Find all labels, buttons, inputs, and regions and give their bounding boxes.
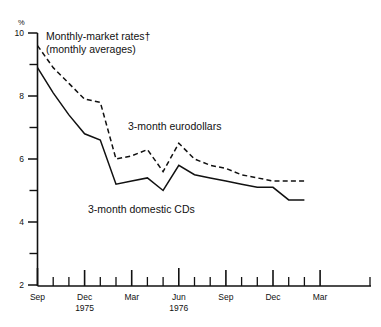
y-label-10: 10 — [15, 28, 25, 38]
x-label-sep-1976: Sep — [218, 292, 233, 302]
x-label-mar-1976: Mar — [124, 292, 139, 302]
y-axis-tick-labels: 10 8 6 4 2 — [15, 28, 25, 290]
chart-title: Monthly-market rates† — [46, 30, 150, 43]
x-label-sep-1975: Sep — [30, 292, 45, 302]
x-label-year-1975: 1975 — [75, 303, 94, 313]
y-label-4: 4 — [19, 217, 24, 227]
chart-subtitle: (monthly averages) — [46, 43, 150, 56]
series-label-eurodollars: 3-month eurodollars — [128, 120, 221, 133]
x-axis-ticks — [38, 268, 371, 286]
y-label-8: 8 — [19, 91, 24, 101]
x-label-year-1976: 1976 — [169, 303, 188, 313]
axis-unit-label: % — [18, 17, 25, 30]
x-axis-tick-labels: Sep Dec 1975 Mar Jun 1976 Sep Dec Mar — [30, 292, 328, 313]
series-line-3-month-domestic-cds — [38, 68, 305, 200]
y-axis-major-ticks — [28, 33, 38, 285]
chart-container: 10 8 6 4 2 — [0, 0, 381, 327]
x-label-dec-1976: Dec — [265, 292, 281, 302]
x-label-mar-1977: Mar — [313, 292, 328, 302]
chart-title-block: Monthly-market rates† (monthly averages) — [46, 30, 150, 55]
series-line-3-month-eurodollars — [38, 46, 305, 181]
y-label-6: 6 — [19, 154, 24, 164]
x-label-dec-1975: Dec — [77, 292, 93, 302]
series-label-domestic-cds: 3-month domestic CDs — [88, 203, 195, 216]
y-label-2: 2 — [19, 280, 24, 290]
x-label-jun-1976: Jun — [172, 292, 186, 302]
